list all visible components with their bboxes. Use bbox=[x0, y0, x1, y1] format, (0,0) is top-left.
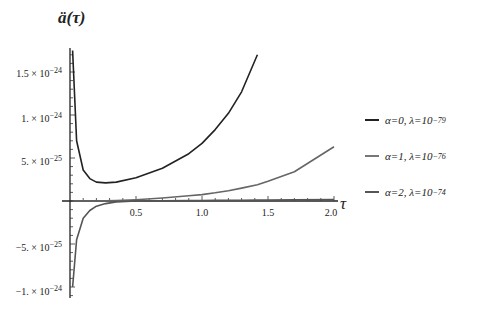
legend-item-alpha1: α=1, λ=10−76 bbox=[365, 148, 446, 164]
y-tick-label: 1.5 × 10−24 bbox=[2, 66, 62, 79]
y-tick-label: 1. × 10−24 bbox=[2, 111, 62, 124]
curve-series-0 bbox=[73, 51, 258, 183]
legend-item-alpha2: α=2, λ=10−74 bbox=[365, 184, 446, 200]
legend-item-alpha0: α=0, λ=10−79 bbox=[365, 112, 446, 128]
x-tick-label: 1.0 bbox=[187, 207, 217, 218]
legend: α=0, λ=10−79 α=1, λ=10−76 α=2, λ=10−74 bbox=[365, 112, 446, 220]
y-axis-label: ä(τ) bbox=[58, 8, 85, 28]
legend-swatch bbox=[365, 119, 379, 121]
y-tick-label: −5. × 10−25 bbox=[2, 240, 62, 253]
x-tick-label: 0.5 bbox=[121, 207, 151, 218]
legend-swatch bbox=[365, 155, 379, 157]
legend-swatch bbox=[365, 191, 379, 193]
axes bbox=[62, 48, 338, 298]
x-tick-label: 2.0 bbox=[316, 207, 346, 218]
curve-series-1 bbox=[73, 147, 334, 201]
x-tick-label: 1.5 bbox=[253, 207, 283, 218]
curves bbox=[73, 51, 334, 288]
y-tick-label: 5. × 10−25 bbox=[2, 154, 62, 167]
y-tick-label: −1. × 10−24 bbox=[2, 284, 62, 297]
